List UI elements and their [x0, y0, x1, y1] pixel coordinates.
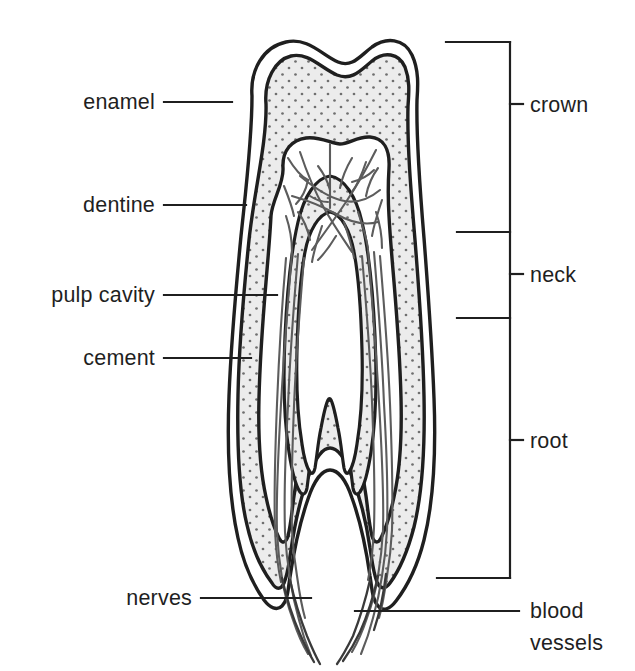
tooth-diagram-figure: enamel dentine pulp cavity cement nerves… — [0, 0, 635, 671]
tooth-cross-section-svg: enamel dentine pulp cavity cement nerves… — [0, 0, 635, 671]
left-label-group: enamel dentine pulp cavity cement nerves — [51, 90, 192, 610]
label-enamel: enamel — [83, 90, 155, 114]
label-neck: neck — [530, 263, 576, 287]
right-label-group: crown neck root blood vessels — [530, 93, 603, 655]
label-cement: cement — [83, 346, 155, 370]
label-root: root — [530, 429, 568, 453]
label-crown: crown — [530, 93, 588, 117]
label-dentine: dentine — [83, 193, 155, 217]
label-vessels: vessels — [530, 631, 603, 655]
tooth-body-group — [228, 41, 434, 610]
label-pulp-cavity: pulp cavity — [51, 283, 155, 307]
label-nerves: nerves — [126, 586, 192, 610]
label-blood: blood — [530, 599, 584, 623]
